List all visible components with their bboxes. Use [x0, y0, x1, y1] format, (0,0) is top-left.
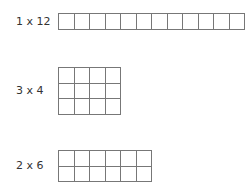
- grid-cell: [75, 14, 91, 30]
- grid-cell: [75, 167, 91, 183]
- grid-cell: [59, 151, 75, 167]
- grid-cell: [59, 167, 75, 183]
- grid-cell: [106, 151, 122, 167]
- grid-cell: [59, 14, 75, 30]
- grid-cell: [121, 167, 137, 183]
- array-grid-1x12: [58, 13, 245, 30]
- grid-cell: [230, 14, 246, 30]
- grid-cell: [214, 14, 230, 30]
- grid-cell: [199, 14, 215, 30]
- grid-cell: [90, 68, 106, 84]
- grid-cell: [121, 14, 137, 30]
- grid-cell: [106, 167, 122, 183]
- grid-cell: [90, 84, 106, 100]
- grid-cell: [152, 14, 168, 30]
- array-grid-2x6: [58, 150, 152, 182]
- grid-cell: [59, 68, 75, 84]
- grid-cell: [121, 151, 137, 167]
- grid-cell: [90, 167, 106, 183]
- grid-cell: [106, 14, 122, 30]
- grid-cell: [137, 151, 153, 167]
- grid-cell: [75, 84, 91, 100]
- grid-cell: [137, 14, 153, 30]
- array-label-1x12: 1 x 12: [16, 15, 51, 28]
- grid-cell: [106, 99, 122, 115]
- grid-cell: [75, 99, 91, 115]
- array-label-2x6: 2 x 6: [16, 159, 44, 172]
- grid-cell: [75, 151, 91, 167]
- grid-cell: [183, 14, 199, 30]
- grid-cell: [106, 68, 122, 84]
- grid-cell: [106, 84, 122, 100]
- grid-cell: [168, 14, 184, 30]
- grid-cell: [90, 14, 106, 30]
- array-grid-3x4: [58, 67, 121, 115]
- grid-cell: [75, 68, 91, 84]
- grid-cell: [90, 99, 106, 115]
- grid-cell: [137, 167, 153, 183]
- grid-cell: [90, 151, 106, 167]
- grid-cell: [59, 84, 75, 100]
- grid-cell: [59, 99, 75, 115]
- array-label-3x4: 3 x 4: [16, 84, 44, 97]
